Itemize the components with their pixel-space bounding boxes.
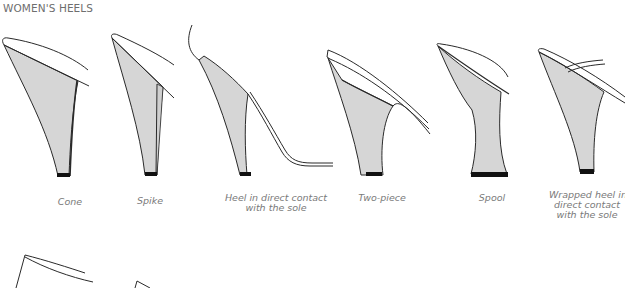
caption-line: Spool [470, 193, 514, 203]
cone-heel-icon [3, 38, 89, 177]
heel-illustrations [0, 0, 625, 288]
partial-heel-icon [16, 255, 93, 288]
caption-wrapped: Wrapped heel in direct contact with the … [549, 190, 625, 220]
partial-heel-icon [135, 281, 150, 288]
caption-line: Cone [40, 197, 100, 207]
wrapped-heel-icon [538, 49, 625, 174]
caption-direct-contact: Heel in direct contact with the sole [216, 193, 336, 213]
caption-line: Spike [124, 196, 176, 206]
caption-spike: Spike [124, 196, 176, 206]
caption-cone: Cone [40, 197, 100, 207]
spool-heel-icon [437, 44, 509, 177]
caption-line: with the sole [549, 210, 625, 220]
caption-line: with the sole [216, 203, 336, 213]
spike-heel-icon [111, 34, 174, 176]
caption-spool: Spool [470, 193, 514, 203]
direct-contact-heel-icon [189, 25, 333, 176]
two-piece-heel-icon [327, 50, 430, 176]
caption-two-piece: Two-piece [352, 193, 412, 203]
caption-line: Two-piece [352, 193, 412, 203]
